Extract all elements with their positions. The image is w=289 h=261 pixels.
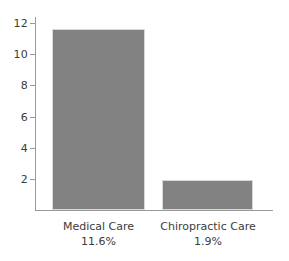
bar [52,29,145,210]
category-value-label: 1.9% [150,234,266,249]
bar [162,180,253,210]
y-axis-tick-label: 8 [21,79,28,92]
y-axis-tick-label: 12 [14,17,28,30]
bar-chart: 12108642 Medical Care11.6%Chiropractic C… [0,0,289,261]
x-axis-line [35,210,273,211]
y-axis-tick-label: 4 [21,141,28,154]
plot-area [35,16,273,210]
y-axis-tick-label: 10 [14,48,28,61]
x-axis-category-label: Chiropractic Care1.9% [150,219,266,249]
category-name: Chiropractic Care [150,219,266,234]
y-axis-tick-label: 2 [21,172,28,185]
y-axis-tick-label: 6 [21,110,28,123]
x-axis-category-label: Medical Care11.6% [35,219,162,249]
category-value-label: 11.6% [35,234,162,249]
category-name: Medical Care [35,219,162,234]
